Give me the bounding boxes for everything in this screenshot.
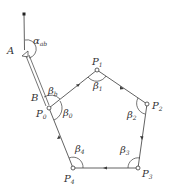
known-point-marker xyxy=(23,13,26,16)
point-a-marker xyxy=(22,51,28,57)
label-beta-2: β2 xyxy=(126,109,137,121)
label-p3: P3 xyxy=(141,168,153,180)
station-p2-marker xyxy=(145,102,149,106)
station-p3-marker xyxy=(136,166,140,170)
direction-arrows xyxy=(57,84,144,170)
label-alpha-ab: αab xyxy=(33,35,47,47)
label-p2: P2 xyxy=(151,100,163,112)
label-beta-0: β0 xyxy=(62,107,73,119)
station-p0-marker xyxy=(47,106,51,110)
station-p1-marker xyxy=(95,68,99,72)
label-beta-4: β4 xyxy=(74,143,85,155)
label-beta-3: β3 xyxy=(119,144,130,156)
label-a: A xyxy=(6,45,14,56)
arc-beta-2 xyxy=(137,98,145,114)
label-beta-b: βb xyxy=(47,85,58,97)
label-p0: P0 xyxy=(35,108,47,120)
label-p1: P1 xyxy=(91,56,103,68)
label-b: B xyxy=(30,92,38,103)
known-line xyxy=(23,13,26,51)
station-p4-marker xyxy=(71,166,75,170)
arc-beta-0 xyxy=(54,101,62,120)
traverse-diagram: A B αab βb β0 β1 β2 β3 β4 P0 P1 P2 P3 P4 xyxy=(0,0,170,190)
label-beta-1: β1 xyxy=(92,80,103,92)
label-p4: P4 xyxy=(63,173,75,185)
